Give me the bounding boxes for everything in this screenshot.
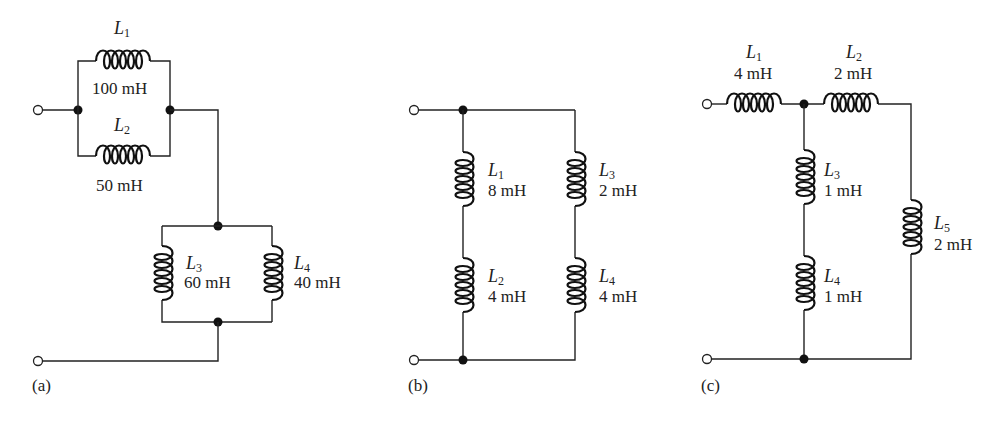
inductor-index: 2 bbox=[856, 50, 862, 64]
value-c-l2: 2 mH bbox=[834, 65, 872, 82]
value-a-l3: 60 mH bbox=[184, 274, 231, 291]
value-c-l3: 1 mH bbox=[824, 182, 862, 199]
inductor-symbol: L bbox=[846, 42, 856, 62]
label-c-l5: L5 bbox=[934, 215, 950, 237]
label-a-l1: L1 bbox=[114, 20, 130, 42]
terminal-c-top bbox=[703, 100, 712, 109]
inductor-index: 5 bbox=[944, 221, 950, 235]
inductor-c-l3 bbox=[797, 150, 815, 204]
value-b-l1: 8 mH bbox=[488, 182, 526, 199]
label-a-l2: L2 bbox=[114, 117, 130, 139]
inductor-index: 1 bbox=[756, 50, 762, 64]
value-c-l5: 2 mH bbox=[934, 236, 972, 253]
terminal-b-top bbox=[410, 106, 419, 115]
inductor-symbol: L bbox=[824, 266, 834, 286]
inductor-b-l2 bbox=[456, 258, 474, 312]
inductor-symbol: L bbox=[186, 253, 196, 273]
value-b-l4: 4 mH bbox=[599, 288, 637, 305]
inductor-symbol: L bbox=[934, 213, 944, 233]
inductor-index: 4 bbox=[834, 274, 840, 288]
value-b-l2: 4 mH bbox=[488, 288, 526, 305]
terminal-a-top bbox=[34, 106, 43, 115]
caption-b: (b) bbox=[408, 376, 428, 396]
inductor-symbol: L bbox=[488, 266, 498, 286]
inductor-a-l4 bbox=[265, 246, 283, 300]
inductor-b-l3 bbox=[568, 152, 586, 206]
inductor-b-l4 bbox=[568, 258, 586, 312]
value-c-l1: 4 mH bbox=[734, 65, 772, 82]
inductor-index: 4 bbox=[609, 274, 615, 288]
inductor-c-l5 bbox=[904, 200, 922, 254]
terminal-a-bottom bbox=[34, 357, 43, 366]
inductor-index: 1 bbox=[124, 26, 130, 40]
inductor-a-l2 bbox=[96, 146, 150, 164]
value-a-l1: 100 mH bbox=[92, 80, 147, 97]
value-a-l2: 50 mH bbox=[96, 177, 143, 194]
inductor-c-l2 bbox=[824, 94, 878, 112]
terminal-b-bottom bbox=[410, 356, 419, 365]
circuit-c bbox=[703, 94, 922, 364]
inductor-symbol: L bbox=[294, 253, 304, 273]
value-c-l4: 1 mH bbox=[824, 288, 862, 305]
inductor-index: 3 bbox=[834, 168, 840, 182]
caption-c: (c) bbox=[701, 376, 720, 396]
circuit-b bbox=[410, 106, 586, 365]
inductor-index: 3 bbox=[609, 168, 615, 182]
inductor-symbol: L bbox=[488, 160, 498, 180]
inductor-c-l1 bbox=[727, 94, 781, 112]
inductor-a-l1 bbox=[96, 51, 150, 69]
inductor-symbol: L bbox=[746, 42, 756, 62]
inductor-symbol: L bbox=[599, 266, 609, 286]
inductor-a-l3 bbox=[155, 246, 173, 300]
circuit-a bbox=[34, 51, 283, 366]
inductor-index: 1 bbox=[498, 168, 504, 182]
inductor-index: 2 bbox=[498, 274, 504, 288]
inductor-index: 2 bbox=[124, 123, 130, 137]
inductor-symbol: L bbox=[114, 115, 124, 135]
inductor-symbol: L bbox=[599, 160, 609, 180]
inductor-b-l1 bbox=[456, 152, 474, 206]
terminal-c-bottom bbox=[703, 355, 712, 364]
inductor-c-l4 bbox=[797, 256, 815, 310]
inductor-symbol: L bbox=[824, 160, 834, 180]
caption-a: (a) bbox=[32, 376, 51, 396]
label-c-l2: L2 bbox=[846, 44, 862, 66]
inductor-symbol: L bbox=[114, 18, 124, 38]
value-b-l3: 2 mH bbox=[599, 182, 637, 199]
value-a-l4: 40 mH bbox=[294, 274, 341, 291]
label-c-l1: L1 bbox=[746, 44, 762, 66]
